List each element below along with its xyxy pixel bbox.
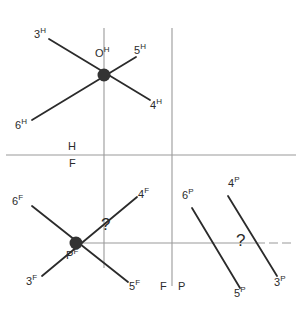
diagram-canvas: 3H OH 5H 4H 6H H F 6F 4F PF 3F 5F ? 6P 4… — [0, 0, 301, 319]
label-5h: 5H — [134, 45, 146, 56]
label-4f: 4F — [138, 189, 149, 200]
region-label-f: F — [69, 158, 76, 169]
cluster-f-lines — [32, 197, 137, 282]
bottom-label-p: P — [178, 281, 185, 292]
label-3p: 3P — [274, 277, 286, 288]
axis-group — [6, 28, 296, 286]
label-4p: 4P — [228, 178, 240, 189]
angle-marker-p: ? — [236, 232, 245, 249]
label-oh: OH — [95, 48, 110, 59]
label-4h: 4H — [150, 100, 162, 111]
label-6h: 6H — [15, 120, 27, 131]
cluster-p-lines — [192, 196, 277, 288]
label-pf: PF — [66, 250, 79, 261]
region-label-h: H — [68, 141, 76, 152]
angle-marker-f: ? — [101, 216, 110, 233]
label-5f: 5F — [129, 281, 140, 292]
label-6f: 6F — [12, 196, 23, 207]
label-3f: 3F — [26, 276, 37, 287]
label-6p: 6P — [182, 190, 194, 201]
node-oh — [98, 69, 111, 82]
cluster-h-lines — [32, 39, 150, 120]
bottom-label-f: F — [160, 281, 167, 292]
label-5p: 5P — [234, 288, 246, 299]
line-6h-to-5h — [32, 57, 136, 120]
line-3f-to-4f — [42, 197, 137, 276]
line-6p-to-5p — [192, 208, 240, 288]
label-3h: 3H — [34, 29, 46, 40]
diagram-svg — [0, 0, 301, 319]
